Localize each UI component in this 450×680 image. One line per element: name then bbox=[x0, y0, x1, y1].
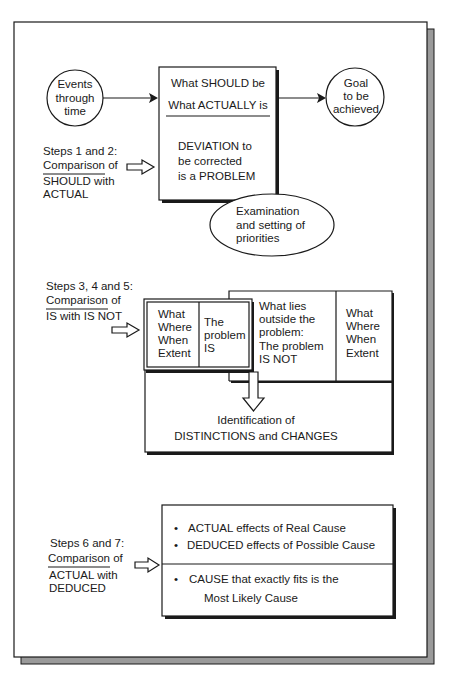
step-denominator: SHOULD with bbox=[43, 175, 115, 187]
is-label-line: The bbox=[204, 316, 224, 328]
is-not-label-line: outside the bbox=[259, 313, 315, 325]
step-title: Steps 1 and 2: bbox=[43, 145, 117, 157]
step-numerator: Comparison of bbox=[46, 294, 122, 306]
deviation-text: DEVIATION to bbox=[178, 140, 252, 152]
events-circle: Events through time bbox=[47, 70, 103, 126]
is-not-label-line: The problem bbox=[259, 340, 324, 352]
step-numerator: Comparison of bbox=[43, 159, 119, 171]
effect-item: DEDUCED effects of Possible Cause bbox=[187, 539, 375, 551]
step-denominator: IS with IS NOT bbox=[46, 310, 122, 322]
is-not-label-line: problem: bbox=[259, 326, 304, 338]
bullet-icon: • bbox=[174, 573, 178, 585]
is-not-label-line: What lies bbox=[259, 300, 307, 312]
step-denominator: ACTUAL bbox=[43, 188, 89, 200]
is-label-line: IS bbox=[204, 342, 215, 354]
step-numerator: Comparison of bbox=[48, 552, 124, 564]
is-not-dimension: Extent bbox=[346, 347, 379, 359]
deviation-text: is a PROBLEM bbox=[178, 170, 255, 182]
problem-analysis-diagram: Events through time What SHOULD be What … bbox=[0, 0, 450, 680]
is-dimension: What bbox=[158, 308, 186, 320]
events-circle-line: time bbox=[64, 105, 86, 117]
is-box: What Where When Extent The problem IS bbox=[144, 299, 254, 373]
should-be-text: What SHOULD be bbox=[171, 77, 265, 89]
is-dimension: When bbox=[158, 334, 188, 346]
goal-circle: Goal to be achieved bbox=[326, 68, 384, 126]
events-circle-line: through bbox=[55, 92, 94, 104]
distinctions-line: Identification of bbox=[217, 414, 295, 426]
is-label-line: problem bbox=[204, 329, 246, 341]
examination-ellipse: Examination and setting of priorities bbox=[210, 194, 334, 256]
goal-circle-line: achieved bbox=[333, 103, 379, 115]
bullet-icon: • bbox=[174, 539, 178, 551]
step-title: Steps 3, 4 and 5: bbox=[46, 280, 133, 292]
bullet-icon: • bbox=[174, 522, 178, 534]
conclusion-line: CAUSE that exactly fits is the bbox=[189, 573, 339, 585]
conclusion-line: Most Likely Cause bbox=[204, 592, 298, 604]
steps-3-5-label: Steps 3, 4 and 5: Comparison of IS with … bbox=[46, 280, 133, 322]
effect-item: ACTUAL effects of Real Cause bbox=[188, 522, 346, 534]
step-denominator: ACTUAL with bbox=[49, 569, 118, 581]
deviation-text: be corrected bbox=[178, 155, 242, 167]
is-dimension: Where bbox=[158, 321, 192, 333]
is-not-dimension: Where bbox=[346, 320, 380, 332]
ellipse-line: and setting of bbox=[236, 219, 306, 231]
step-denominator: DEDUCED bbox=[49, 582, 106, 594]
is-not-label-line: IS NOT bbox=[259, 353, 297, 365]
ellipse-line: Examination bbox=[236, 205, 299, 217]
is-dimension: Extent bbox=[158, 347, 191, 359]
actually-is-text: What ACTUALLY is bbox=[168, 99, 268, 111]
events-circle-line: Events bbox=[57, 78, 92, 90]
goal-circle-line: Goal bbox=[344, 77, 368, 89]
step-title: Steps 6 and 7: bbox=[50, 537, 124, 549]
should-actual-box: What SHOULD be What ACTUALLY is DEVIATIO… bbox=[159, 67, 279, 203]
ellipse-line: priorities bbox=[236, 232, 280, 244]
goal-circle-line: to be bbox=[343, 90, 369, 102]
distinctions-line: DISTINCTIONS and CHANGES bbox=[174, 430, 338, 442]
is-not-dimension: What bbox=[346, 307, 374, 319]
is-not-dimension: When bbox=[346, 333, 376, 345]
cause-box: • ACTUAL effects of Real Cause • DEDUCED… bbox=[162, 505, 396, 619]
